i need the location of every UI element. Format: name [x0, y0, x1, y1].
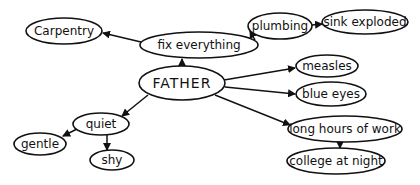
- concept-map-canvas: FATHERfix everythingCarpentryplumbingsin…: [0, 0, 420, 185]
- edge-father-to-measles: [224, 68, 295, 80]
- edge-quiet-to-gentle: [63, 129, 77, 136]
- node-measles: measles: [296, 55, 358, 77]
- node-label: FATHER: [153, 75, 212, 91]
- node-gentle: gentle: [14, 133, 66, 155]
- node-quiet: quiet: [73, 113, 129, 135]
- edge-plumbing-to-sink: [312, 24, 322, 25]
- node-plumbing: plumbing: [248, 13, 312, 39]
- node-carpentry: Carpentry: [26, 18, 102, 44]
- edge-father-to-blueeyes: [225, 87, 295, 94]
- node-label: blue eyes: [302, 87, 360, 101]
- node-fix: fix everything: [140, 32, 258, 58]
- node-label: quiet: [86, 117, 117, 131]
- node-label: plumbing: [252, 19, 308, 33]
- node-label: measles: [302, 59, 352, 73]
- node-label: shy: [102, 153, 123, 167]
- node-shy: shy: [90, 150, 134, 170]
- node-label: long hours of work: [289, 122, 401, 136]
- node-longhours: long hours of work: [288, 116, 402, 142]
- node-label: fix everything: [157, 38, 240, 52]
- node-label: gentle: [21, 137, 59, 151]
- node-label: sink exploded: [323, 15, 406, 29]
- node-sink: sink exploded: [322, 10, 408, 34]
- node-college: college at night: [287, 148, 385, 174]
- edge-father-to-longhours: [215, 95, 290, 125]
- node-label: Carpentry: [34, 24, 94, 38]
- node-father: FATHER: [139, 66, 225, 100]
- node-blueeyes: blue eyes: [296, 82, 366, 106]
- edge-father-to-quiet: [122, 95, 148, 116]
- edge-fix-to-carpentry: [103, 33, 141, 42]
- nodes-layer: FATHERfix everythingCarpentryplumbingsin…: [14, 10, 408, 174]
- node-label: college at night: [289, 154, 383, 168]
